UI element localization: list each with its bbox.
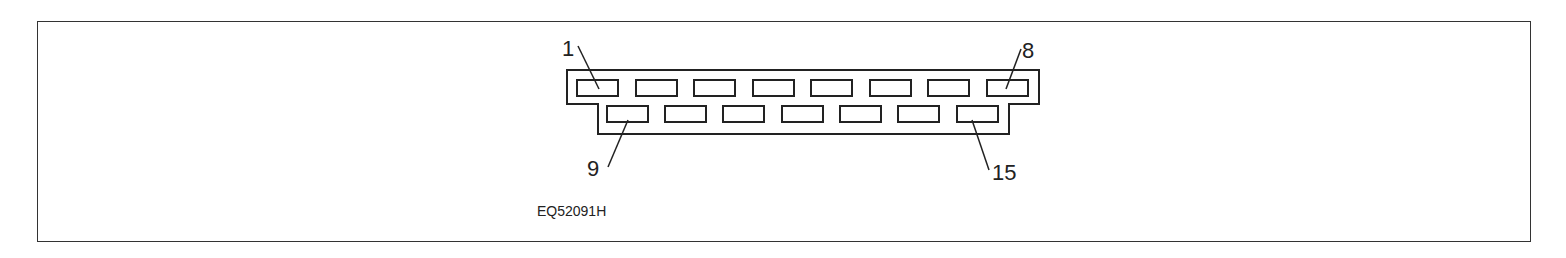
pin-11 [723,106,764,122]
pin-labels: 1 8 9 15 [562,36,1034,185]
label-pin9: 9 [587,156,599,181]
pin-14 [898,106,939,122]
top-row-pins [577,80,1028,96]
pin-10 [665,106,706,122]
bottom-row-pins [607,106,998,122]
leader-pin9 [608,120,628,167]
label-pin8: 8 [1022,38,1034,63]
label-pin1: 1 [562,36,574,61]
leader-lines [578,46,1021,170]
connector-diagram: 1 8 9 15 [0,0,1566,258]
pin-8 [987,80,1028,96]
pin-5 [811,80,852,96]
pin-7 [928,80,969,96]
pin-3 [694,80,735,96]
pin-4 [753,80,794,96]
figure-code: EQ52091H [537,203,606,219]
leader-pin15 [972,120,989,170]
pin-9 [607,106,648,122]
pin-15 [957,106,998,122]
pin-6 [870,80,911,96]
pin-12 [782,106,823,122]
leader-pin1 [578,46,599,89]
pin-1 [577,80,618,96]
pin-2 [636,80,677,96]
label-pin15: 15 [992,160,1016,185]
pin-13 [840,106,881,122]
